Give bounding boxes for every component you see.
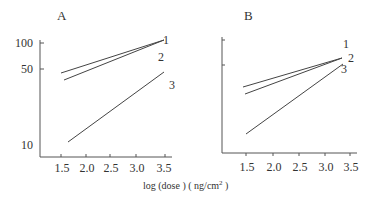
panel-b-x-tick-label: 3.0	[319, 160, 334, 174]
panel-a-x-tick-label: 2.5	[104, 161, 119, 175]
panel-b-x-tick-label: 1.5	[240, 160, 255, 174]
panel-a: A 100 50 10 1.5 2.0 2.5 3.0 3.5 1 2 3	[15, 8, 175, 175]
panel-b: B 1.5 2.0 2.5 3.0 3.5 1 2 3	[222, 8, 359, 174]
panel-a-series-1-label: 1	[163, 33, 169, 47]
panel-a-series-2-label: 2	[158, 50, 164, 64]
panel-b-series-1-line	[243, 58, 342, 87]
figure: A 100 50 10 1.5 2.0 2.5 3.0 3.5 1 2 3 B	[0, 0, 372, 204]
panel-a-y-tick-label: 10	[21, 138, 33, 152]
panel-b-series-3-line	[246, 64, 343, 134]
panel-a-title: A	[57, 8, 67, 23]
panel-a-series-1-line	[61, 40, 164, 73]
panel-a-series-3-label: 3	[169, 78, 175, 92]
panel-a-x-tick-label: 3.0	[130, 161, 145, 175]
panel-a-y-tick-label: 100	[15, 36, 33, 50]
panel-b-series-2-label: 2	[348, 51, 354, 65]
x-axis-label-main: log (dose ) ( ng/cm	[143, 180, 219, 192]
panel-a-x-tick-label: 3.5	[157, 161, 172, 175]
panel-a-x-tick-label: 1.5	[55, 161, 70, 175]
x-axis-label-tail: )	[223, 180, 229, 192]
panel-b-x-tick-label: 2.0	[267, 160, 282, 174]
panel-b-series-3-label: 3	[341, 62, 347, 76]
panel-b-x-tick-label: 2.5	[293, 160, 308, 174]
panel-b-series-2-line	[245, 58, 342, 94]
panel-a-y-tick-label: 50	[21, 62, 33, 76]
panel-a-series-3-line	[68, 72, 164, 142]
panel-b-x-tick-label: 3.5	[344, 160, 359, 174]
panel-b-series-1-label: 1	[343, 37, 349, 51]
x-axis-label: log (dose ) ( ng/cm2 )	[143, 179, 228, 192]
panel-b-title: B	[244, 8, 253, 23]
panel-a-series-2-line	[64, 40, 164, 80]
panel-a-x-tick-label: 2.0	[80, 161, 95, 175]
